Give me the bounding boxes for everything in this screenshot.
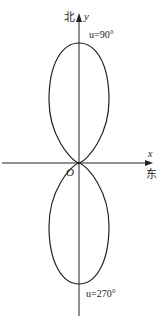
x-axis-label: x — [148, 149, 152, 159]
origin-label: O — [66, 167, 74, 178]
east-label: 东 — [146, 169, 157, 180]
annotation-u-90: u=90° — [89, 30, 114, 40]
diagram-canvas — [0, 0, 162, 327]
annotation-u-270: u=270° — [86, 289, 116, 299]
x-axis-arrow-icon — [145, 160, 153, 166]
north-label: 北 — [64, 12, 75, 23]
y-axis-label: y — [84, 11, 89, 22]
y-axis-arrow-icon — [76, 13, 82, 22]
